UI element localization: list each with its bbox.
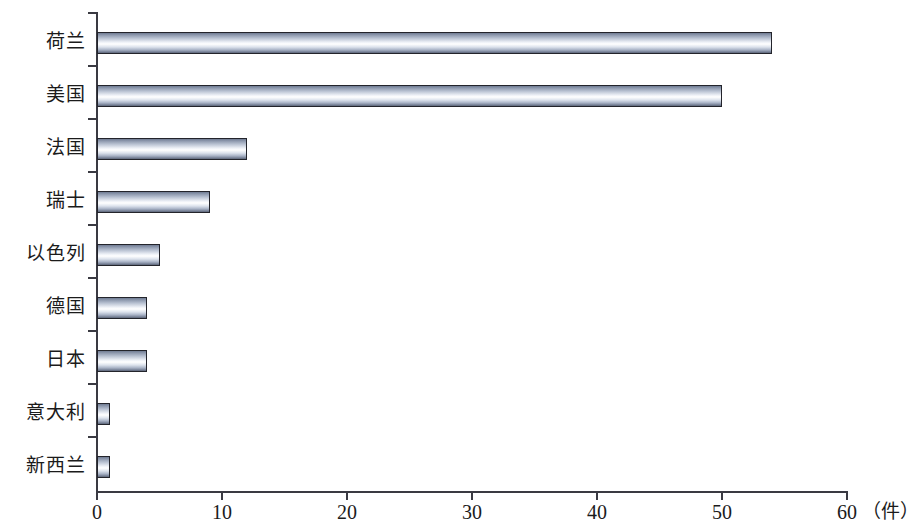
y-axis-tick [88,12,97,14]
y-axis-tick [88,277,97,279]
x-tick-label-4: 40 [567,502,627,522]
bar-6 [97,350,147,372]
x-tick-label-3: 30 [442,502,502,522]
x-axis-unit-label: （件） [862,502,919,522]
y-axis-tick [88,383,97,385]
x-tick-label-1: 10 [192,502,252,522]
x-tick-label-5: 50 [692,502,752,522]
bar-chart: 荷兰 美国 法国 瑞士 以色列 德国 日本 意大利 新西兰 0 10 [0,0,923,532]
x-axis-tick [96,492,98,500]
y-axis-tick [88,118,97,120]
bar-8 [97,456,110,478]
category-axis-labels: 荷兰 美国 法国 瑞士 以色列 德国 日本 意大利 新西兰 [0,0,86,492]
category-label-6: 日本 [2,350,86,369]
x-tick-label-0: 0 [67,502,127,522]
bar-4 [97,244,160,266]
x-axis-tick [346,492,348,500]
x-axis-tick [721,492,723,500]
category-label-3: 瑞士 [2,191,86,210]
category-label-1: 美国 [2,85,86,104]
x-axis-tick [471,492,473,500]
y-axis-tick [88,224,97,226]
category-label-7: 意大利 [2,403,86,422]
category-label-8: 新西兰 [2,456,86,475]
y-axis-tick [88,65,97,67]
bar-1 [97,85,722,107]
x-axis-tick [596,492,598,500]
x-tick-label-2: 20 [317,502,377,522]
y-axis-tick [88,330,97,332]
y-axis-tick [88,436,97,438]
bar-2 [97,138,247,160]
x-axis-tick [846,492,848,500]
bar-7 [97,403,110,425]
category-label-5: 德国 [2,297,86,316]
category-label-2: 法国 [2,138,86,157]
x-axis-tick [221,492,223,500]
category-label-0: 荷兰 [2,32,86,51]
bar-3 [97,191,210,213]
category-label-4: 以色列 [2,244,86,263]
bar-5 [97,297,147,319]
plot-area [97,12,847,492]
y-axis-tick [88,171,97,173]
bar-0 [97,32,772,54]
